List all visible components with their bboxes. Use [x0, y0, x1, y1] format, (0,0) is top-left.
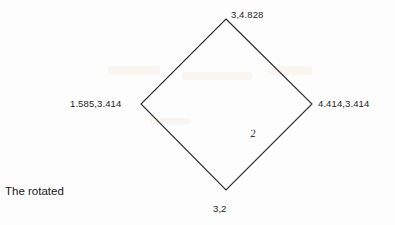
figure-caption: The rotated — [5, 184, 64, 198]
vertex-label-right: 4.414,3.414 — [318, 98, 369, 109]
vertex-label-left: 1.585,3.414 — [70, 98, 121, 109]
vertex-label-top: 3,4.828 — [231, 9, 263, 20]
edge-length-label: 2 — [249, 127, 256, 140]
rotated-square-path — [141, 19, 312, 190]
rotated-square-figure: 3,4.828 4.414,3.414 3,2 1.585,3.414 2 Th… — [0, 0, 395, 225]
vertex-label-bottom: 3,2 — [213, 203, 227, 214]
